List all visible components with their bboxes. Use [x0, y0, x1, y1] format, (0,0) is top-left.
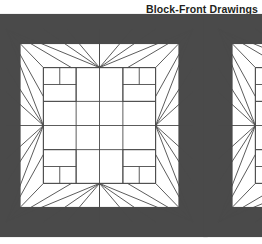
quilt-block-secondary — [218, 29, 262, 222]
page-root: Block-Front Drawings — [0, 0, 262, 244]
block-front-drawings-figure — [0, 0, 262, 244]
quilt-block-primary — [6, 29, 193, 222]
